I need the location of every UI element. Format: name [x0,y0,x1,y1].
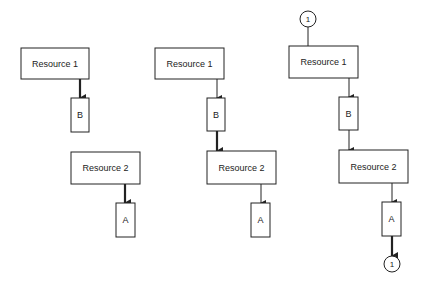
task-box-l-a: A [116,203,135,237]
nodes-layer: Resource 1BResource 2AResource 1BResourc… [21,11,408,272]
resource-box-l-r2: Resource 2 [71,152,140,184]
panel-middle: Resource 1BResource 2A [155,48,276,237]
diagram-canvas: Resource 1BResource 2AResource 1BResourc… [0,0,425,287]
resource-allocation-diagram: Resource 1BResource 2AResource 1BResourc… [0,0,425,287]
connector-label: 1 [390,260,395,269]
connector-label: 1 [306,15,311,24]
resource-box-m-r2: Resource 2 [207,151,276,184]
panel-left: Resource 1BResource 2A [21,48,140,237]
node-label: Resource 2 [350,162,396,172]
task-box-m-b: B [207,98,225,131]
node-label: A [122,215,128,225]
resource-box-m-r1: Resource 1 [155,48,224,79]
node-label: Resource 2 [218,163,264,173]
node-label: Resource 1 [32,59,78,69]
task-box-r-b: B [339,97,358,130]
node-label: A [388,214,394,224]
task-box-l-b: B [71,98,89,132]
connector-circle-c-bottom: 1 [384,256,400,272]
task-box-r-a: A [382,202,401,236]
resource-box-r-r1: Resource 1 [289,46,358,78]
node-label: Resource 1 [166,59,212,69]
node-label: Resource 1 [300,57,346,67]
node-label: B [77,110,83,120]
connector-circle-c-top: 1 [300,11,316,27]
node-label: B [345,109,351,119]
node-label: B [213,110,219,120]
node-label: A [257,215,263,225]
resource-box-l-r1: Resource 1 [21,48,89,79]
node-label: Resource 2 [82,163,128,173]
task-box-m-a: A [251,203,270,237]
resource-box-r-r2: Resource 2 [339,150,408,183]
